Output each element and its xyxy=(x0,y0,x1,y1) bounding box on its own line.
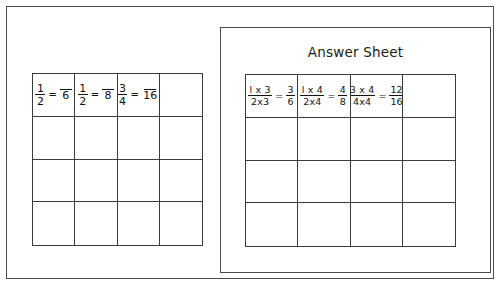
answer-cell-r1c3[interactable]: 3 x 4 4x4 = 12 16 xyxy=(351,75,403,118)
fraction-numerator: 12 xyxy=(389,85,402,96)
exercise-cell-r4c2[interactable] xyxy=(75,202,117,245)
answer-grid: l x 3 2x3 = 3 6 l x 4 2x4 xyxy=(245,74,456,247)
fraction-left: 1 2 xyxy=(78,83,88,107)
answer-cell-r1c1[interactable]: l x 3 2x3 = 3 6 xyxy=(246,75,298,118)
answer-cell-r1c2[interactable]: l x 4 2x4 = 4 8 xyxy=(298,75,350,118)
exercise-grid: 1 2 = 6 1 2 = xyxy=(32,73,203,246)
answer-cell-r4c2[interactable] xyxy=(298,203,350,246)
fraction-denominator: 4x4 xyxy=(351,96,375,106)
fraction-numerator: l x 4 xyxy=(300,85,324,96)
exercise-cell-r2c1[interactable] xyxy=(33,117,75,160)
fraction-numerator: l x 3 xyxy=(248,85,272,96)
fraction-right: 4 8 xyxy=(338,85,347,106)
fraction-right: 16 xyxy=(142,88,159,101)
fraction-numerator: 1 xyxy=(35,83,45,96)
fraction-numerator: 3 x 4 xyxy=(351,85,376,96)
fraction-numerator: 3 xyxy=(118,83,128,96)
fraction-equation: 3 4 = 16 xyxy=(118,83,159,107)
answer-cell-r2c2[interactable] xyxy=(298,118,350,161)
answer-cell-r3c4[interactable] xyxy=(403,161,455,204)
fraction-right: 12 16 xyxy=(389,85,402,106)
fraction-denominator: 4 xyxy=(118,95,128,107)
exercise-cell-r3c4[interactable] xyxy=(160,160,202,203)
fraction-right: 8 xyxy=(102,88,114,101)
answer-cell-r3c1[interactable] xyxy=(246,161,298,204)
exercise-cell-r2c2[interactable] xyxy=(75,117,117,160)
fraction-denominator: 8 xyxy=(338,96,347,106)
fraction-right: 6 xyxy=(60,88,72,101)
answer-sheet-panel: Answer Sheet l x 3 2x3 = 3 6 xyxy=(220,27,491,273)
exercise-cell-r2c3[interactable] xyxy=(118,117,160,160)
fraction-right: 3 6 xyxy=(286,85,295,106)
answer-cell-r3c3[interactable] xyxy=(351,161,403,204)
exercise-cell-r1c3[interactable]: 3 4 = 16 xyxy=(118,74,160,117)
exercise-cell-r2c4[interactable] xyxy=(160,117,202,160)
fraction-denominator: 16 xyxy=(142,90,159,102)
exercise-cell-r4c1[interactable] xyxy=(33,202,75,245)
exercise-cell-r4c4[interactable] xyxy=(160,202,202,245)
exercise-cell-r1c1[interactable]: 1 2 = 6 xyxy=(33,74,75,117)
fraction-denominator: 8 xyxy=(103,90,113,102)
fraction-equation: 3 x 4 4x4 = 12 16 xyxy=(351,85,403,106)
fraction-equation: 1 2 = 8 xyxy=(78,83,114,107)
fraction-equation: 1 2 = 6 xyxy=(35,83,71,107)
fraction-left: 3 x 4 4x4 xyxy=(351,85,376,106)
answer-cell-r1c4[interactable] xyxy=(403,75,455,118)
answer-cell-r2c4[interactable] xyxy=(403,118,455,161)
exercise-cell-r3c1[interactable] xyxy=(33,160,75,203)
exercise-cell-r3c2[interactable] xyxy=(75,160,117,203)
equals-sign: = xyxy=(274,91,284,101)
answer-sheet-title: Answer Sheet xyxy=(221,44,490,60)
exercise-cell-r3c3[interactable] xyxy=(118,160,160,203)
answer-cell-r4c3[interactable] xyxy=(351,203,403,246)
fraction-left: 1 2 xyxy=(35,83,45,107)
fraction-denominator: 6 xyxy=(286,96,295,106)
equals-sign: = xyxy=(47,90,57,100)
fraction-denominator: 2 xyxy=(78,95,88,107)
answer-cell-r2c1[interactable] xyxy=(246,118,298,161)
fraction-denominator: 2x3 xyxy=(248,96,272,106)
outer-frame: 1 2 = 6 1 2 = xyxy=(6,6,494,279)
fraction-numerator: 4 xyxy=(338,85,347,96)
fraction-equation: l x 4 2x4 = 4 8 xyxy=(300,85,347,106)
equals-sign: = xyxy=(129,90,139,100)
fraction-denominator: 16 xyxy=(389,96,402,106)
exercise-cell-r4c3[interactable] xyxy=(118,202,160,245)
answer-cell-r2c3[interactable] xyxy=(351,118,403,161)
fraction-denominator: 2x4 xyxy=(300,96,324,106)
exercise-cell-r1c2[interactable]: 1 2 = 8 xyxy=(75,74,117,117)
exercise-cell-r1c4[interactable] xyxy=(160,74,202,117)
fraction-left: l x 4 2x4 xyxy=(300,85,324,106)
equals-sign: = xyxy=(326,91,336,101)
fraction-equation: l x 3 2x3 = 3 6 xyxy=(248,85,295,106)
equals-sign: = xyxy=(377,91,387,101)
fraction-numerator: 1 xyxy=(78,83,88,96)
answer-cell-r4c4[interactable] xyxy=(403,203,455,246)
equals-sign: = xyxy=(90,90,100,100)
fraction-numerator: 3 xyxy=(286,85,295,96)
fraction-left: 3 4 xyxy=(118,83,128,107)
fraction-denominator: 2 xyxy=(35,95,45,107)
worksheet-page: 1 2 = 6 1 2 = xyxy=(0,0,502,287)
answer-cell-r3c2[interactable] xyxy=(298,161,350,204)
fraction-left: l x 3 2x3 xyxy=(248,85,272,106)
answer-cell-r4c1[interactable] xyxy=(246,203,298,246)
fraction-denominator: 6 xyxy=(61,90,71,102)
